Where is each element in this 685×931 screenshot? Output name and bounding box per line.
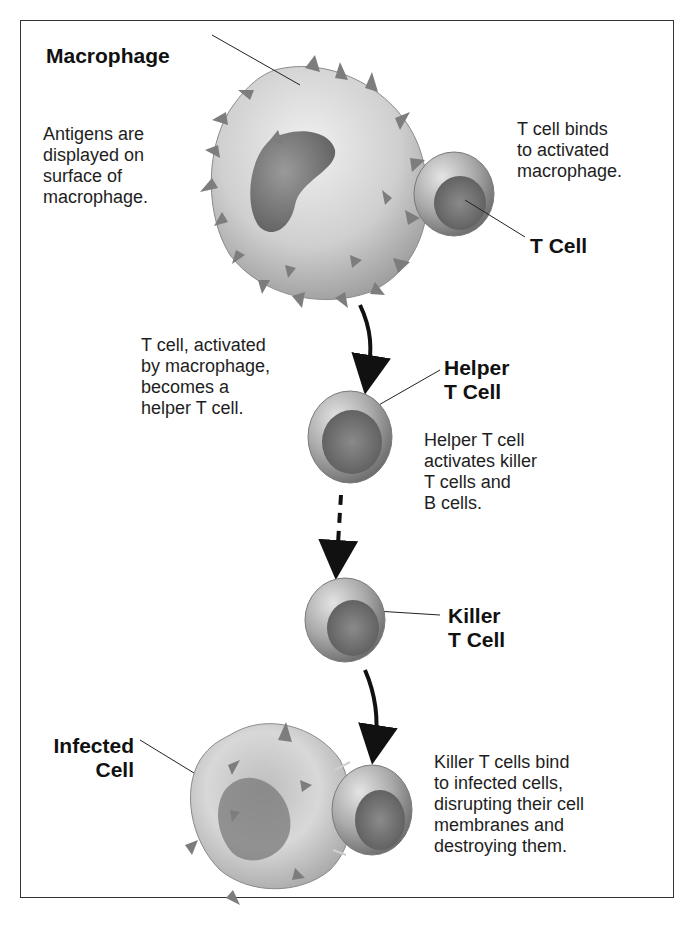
caption-line: Antigens are [43,124,148,145]
arrow-down-1 [360,305,370,375]
caption-line: activates killer [424,451,537,472]
caption-line: macrophage. [43,187,148,208]
caption-activated: T cell, activated by macrophage, becomes… [141,335,270,419]
helper-t-cell [308,391,392,483]
caption-t-binds: T cell binds to activated macrophage. [517,119,622,182]
caption-line: destroying them. [434,836,584,857]
label-helper-line2: T Cell [444,380,509,404]
label-macrophage: Macrophage [46,44,170,68]
caption-antigens: Antigens are displayed on surface of mac… [43,124,148,208]
killer-t-cell [305,578,385,662]
caption-line: helper T cell. [141,398,270,419]
label-killer-line2: T Cell [448,628,505,652]
caption-line: surface of [43,166,148,187]
t-cell [414,152,494,236]
caption-line: to infected cells, [434,773,584,794]
caption-line: Killer T cells bind [434,752,584,773]
caption-line: T cells and [424,472,537,493]
caption-line: membranes and [434,815,584,836]
caption-line: Helper T cell [424,430,537,451]
caption-line: to activated [517,140,622,161]
macrophage-cell [200,55,428,308]
caption-line: by macrophage, [141,356,270,377]
caption-helper-activates: Helper T cell activates killer T cells a… [424,430,537,514]
label-killer-t-cell: Killer T Cell [448,604,505,652]
caption-line: macrophage. [517,161,622,182]
label-helper-line1: Helper [444,356,509,380]
caption-line: T cell binds [517,119,622,140]
caption-killer-bind: Killer T cells bind to infected cells, d… [434,752,584,857]
label-infected-line1: Infected [30,734,134,758]
caption-line: becomes a [141,377,270,398]
label-infected-line2: Cell [30,758,134,782]
label-infected-cell: Infected Cell [30,734,134,782]
caption-line: B cells. [424,493,537,514]
caption-line: disrupting their cell [434,794,584,815]
infected-cell [185,722,412,905]
caption-line: T cell, activated [141,335,270,356]
label-killer-line1: Killer [448,604,505,628]
arrow-dashed [337,495,341,560]
label-helper-t-cell: Helper T Cell [444,356,509,404]
label-t-cell: T Cell [530,234,587,258]
arrow-down-2 [365,670,377,745]
caption-line: displayed on [43,145,148,166]
